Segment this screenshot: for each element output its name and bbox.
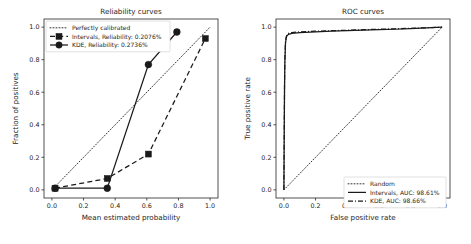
reliability-ytick-label: 0.6 [29, 89, 39, 97]
reliability-legend-label: Perfectly calibrated [72, 24, 130, 32]
roc-legend-label: Random [370, 180, 395, 187]
roc-legend[interactable]: RandomIntervals, AUC: 98.61%KDE, AUC: 98… [344, 177, 446, 208]
roc-legend-label: Intervals, AUC: 98.61% [370, 189, 440, 196]
reliability-xtick-label: 1.0 [205, 202, 215, 210]
reliability-ytick-label: 0.0 [29, 186, 39, 194]
roc-ytick-label: 0.8 [261, 56, 271, 64]
roc-ytick-label: 0.4 [261, 121, 271, 129]
roc-plot: ROC curves0.00.20.40.60.81.00.00.20.40.6… [236, 0, 471, 244]
roc-legend-label: KDE, AUC: 98.66% [370, 197, 426, 204]
reliability-plot: Reliability curves0.00.20.40.60.81.00.00… [0, 0, 235, 244]
roc-ytick-label: 0.2 [261, 154, 271, 162]
reliability-xtick-label: 0.4 [110, 202, 120, 210]
roc-xtick-label: 0.0 [279, 202, 289, 210]
roc-title: ROC curves [342, 7, 384, 16]
reliability-xtick-label: 0.6 [142, 202, 152, 210]
roc-panel: ROC curves0.00.20.40.60.81.00.00.20.40.6… [236, 0, 471, 244]
reliability-series-line [55, 39, 205, 189]
reliability-panel: Reliability curves0.00.20.40.60.81.00.00… [0, 0, 235, 244]
roc-xlabel: False positive rate [330, 213, 396, 222]
roc-ytick-label: 1.0 [261, 23, 271, 31]
reliability-marker-square [202, 36, 208, 42]
reliability-marker-circle [104, 185, 111, 192]
reliability-legend-label: Intervals, Reliability: 0.2076% [72, 33, 162, 41]
reliability-ytick-label: 0.8 [29, 56, 39, 64]
roc-ylabel: True positive rate [243, 77, 252, 141]
reliability-legend-label: KDE, Reliability: 0.2736% [72, 41, 148, 49]
reliability-legend[interactable]: Perfectly calibratedIntervals, Reliabili… [46, 21, 170, 52]
reliability-marker-circle [52, 185, 59, 192]
reliability-xtick-label: 0.8 [173, 202, 183, 210]
reliability-xtick-label: 0.0 [47, 202, 57, 210]
reliability-ytick-label: 1.0 [29, 23, 39, 31]
reliability-title: Reliability curves [100, 7, 162, 16]
reliability-legend-marker-circle [56, 42, 62, 48]
reliability-marker-circle [173, 29, 180, 36]
roc-ytick-label: 0.0 [261, 186, 271, 194]
roc-ytick-label: 0.6 [261, 89, 271, 97]
reliability-xlabel: Mean estimated probability [82, 213, 181, 222]
roc-xtick-label: 0.2 [310, 202, 320, 210]
reliability-marker-square [145, 151, 151, 157]
reliability-ytick-label: 0.2 [29, 154, 39, 162]
figure-canvas: Reliability curves0.00.20.40.60.81.00.00… [0, 0, 471, 244]
reliability-xtick-label: 0.2 [78, 202, 88, 210]
roc-series-group [284, 27, 442, 190]
reliability-marker-circle [145, 61, 152, 68]
reliability-legend-marker-square [56, 33, 62, 39]
reliability-series-line [55, 32, 177, 188]
reliability-ytick-label: 0.4 [29, 121, 39, 129]
roc-series-line [284, 27, 442, 190]
reliability-ylabel: Fraction of positives [11, 72, 20, 144]
